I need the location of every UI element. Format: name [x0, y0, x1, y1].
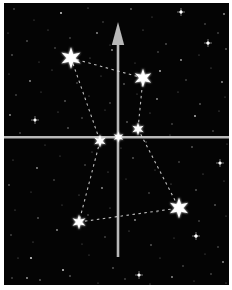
sky-canvas: [0, 0, 232, 290]
bg-star-dot: [39, 279, 41, 281]
bg-star-dot: [145, 141, 146, 142]
bg-star-dot: [69, 275, 71, 277]
bg-star-dot: [182, 265, 183, 266]
bg-star-dot: [185, 79, 186, 80]
bg-star-dot: [87, 214, 88, 215]
bg-star-dot: [218, 110, 219, 111]
bg-star-dot: [59, 155, 60, 156]
bg-star-dot: [37, 217, 39, 219]
bg-star-dot: [151, 16, 152, 17]
bg-star-dot: [159, 257, 160, 258]
bg-star-dot: [96, 32, 98, 34]
bg-star-dot: [7, 32, 8, 33]
bg-star-dot: [97, 282, 98, 283]
bg-star-dot: [134, 62, 135, 63]
bg-star-dot: [54, 47, 55, 48]
bg-star-dot: [126, 121, 128, 123]
bg-star-dot: [100, 75, 101, 76]
bg-star-dot: [78, 194, 79, 195]
bg-star-dot: [170, 183, 171, 184]
bg-star-dot: [171, 123, 172, 124]
bg-star-dot: [57, 111, 58, 112]
bg-star-dot: [165, 43, 167, 45]
bg-star-dot: [225, 215, 226, 216]
bg-star-dot: [88, 254, 89, 255]
bg-star-dot: [60, 12, 62, 14]
bg-star-dot: [204, 253, 205, 254]
bg-star-dot: [128, 230, 129, 231]
bg-star-dot: [89, 57, 90, 58]
bg-star-dot: [198, 220, 199, 221]
bg-star-dot: [112, 267, 114, 269]
bg-star-dot: [199, 103, 201, 105]
sparkle-core: [180, 11, 183, 14]
bg-star-dot: [222, 261, 224, 263]
bg-star-dot: [159, 70, 161, 72]
sky-background: [4, 3, 229, 285]
bg-star-dot: [10, 234, 11, 235]
bg-star-dot: [62, 269, 64, 271]
bg-star-dot: [19, 132, 20, 133]
bg-star-dot: [149, 283, 150, 284]
bg-star-dot: [202, 173, 203, 174]
bg-star-dot: [130, 8, 132, 10]
bg-star-dot: [88, 95, 89, 96]
bg-star-dot: [210, 273, 211, 274]
bg-star-dot: [30, 257, 32, 259]
bg-star-dot: [178, 161, 179, 162]
bg-star-dot: [32, 241, 33, 242]
bg-star-dot: [84, 164, 85, 165]
bg-star-dot: [13, 8, 14, 9]
bg-star-dot: [29, 80, 31, 82]
bg-star-dot: [53, 179, 54, 180]
bg-star-dot: [180, 59, 182, 61]
bg-star-dot: [171, 276, 173, 278]
bg-star-dot: [38, 61, 39, 62]
bg-star-dot: [123, 83, 125, 85]
bg-star-dot: [125, 178, 126, 179]
bg-star-dot: [47, 29, 48, 30]
bg-star-dot: [8, 184, 10, 186]
sparkle-core: [138, 274, 141, 277]
bg-star-dot: [40, 91, 41, 92]
bg-star-dot: [224, 96, 225, 97]
bg-star-dot: [210, 67, 211, 68]
bg-star-dot: [124, 278, 125, 279]
bg-star-dot: [173, 237, 174, 238]
bg-star-dot: [12, 159, 13, 160]
bg-star-dot: [36, 167, 38, 169]
bg-star-dot: [8, 73, 9, 74]
sparkle-core: [219, 162, 222, 165]
bg-star-dot: [156, 98, 158, 100]
sparkle-core: [207, 42, 210, 45]
bg-star-dot: [217, 32, 218, 33]
bg-star-dot: [148, 192, 149, 193]
bg-star-dot: [136, 93, 137, 94]
bg-star-dot: [64, 100, 66, 102]
bg-star-dot: [169, 134, 170, 135]
bg-star-dot: [142, 29, 143, 30]
bg-star-dot: [120, 147, 121, 148]
bg-star-dot: [26, 277, 28, 279]
bg-star-dot: [223, 13, 225, 15]
constellation-figure: [0, 0, 232, 290]
bg-star-dot: [109, 102, 110, 103]
bg-star-dot: [226, 143, 227, 144]
bg-star-dot: [111, 49, 113, 51]
bg-star-dot: [204, 23, 205, 24]
bg-star-dot: [104, 109, 105, 110]
bg-star-dot: [30, 191, 31, 192]
bg-star-dot: [51, 69, 52, 70]
bg-star-dot: [194, 115, 196, 117]
bg-star-dot: [17, 257, 18, 258]
bg-star-dot: [157, 51, 158, 52]
bg-star-dot: [56, 229, 58, 231]
bg-star-dot: [223, 180, 224, 181]
bg-star-dot: [225, 282, 226, 283]
bg-star-dot: [91, 151, 92, 152]
bg-star-dot: [154, 169, 155, 170]
bg-star-dot: [149, 112, 150, 113]
bg-star-dot: [102, 21, 103, 22]
bg-star-dot: [81, 243, 82, 244]
bg-star-dot: [67, 127, 69, 129]
